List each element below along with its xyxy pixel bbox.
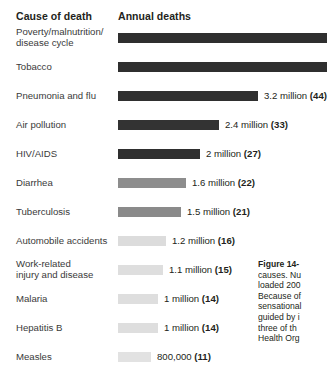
chart-row-label: Diarrhea [16,177,116,188]
bar-value-number: 1 million [164,293,202,304]
chart-row-label: Tobacco [16,61,116,72]
chart-row-label: Hepatitis B [16,322,116,333]
chart-bar-value-label: 1.1 million (15) [169,263,232,276]
figure-caption-body: causes. Nu loaded 200 Because of sensati… [258,270,332,344]
bar-value-number: 1.2 million [172,235,218,246]
chart-bar [118,178,186,188]
chart-bar-value-label: 1 million (14) [164,321,219,334]
bar-value-rank: (15) [215,264,232,275]
chart-bar-value-label: 2 million (27) [206,147,261,160]
chart-bar [118,352,151,362]
column-headers: Cause of death Annual deaths [0,10,327,26]
chart-row-label: HIV/AIDS [16,148,116,159]
bar-value-rank: (27) [244,148,261,159]
chart-bar-value-label: 800,000 (11) [157,350,211,363]
chart-row-label: Air pollution [16,119,116,130]
bar-value-rank: (44) [310,90,327,101]
chart-row: Pneumonia and flu3.2 million (44) [0,89,327,118]
chart-bar-value-label: 3.2 million (44) [264,89,327,102]
bar-value-rank: (14) [202,322,219,333]
chart-row-label: Pneumonia and flu [16,90,116,101]
chart-bar [118,265,163,275]
chart-bar-value-label: 2.4 million (33) [225,118,288,131]
bar-value-number: 2 million [206,148,244,159]
bar-value-number: 800,000 [157,351,194,362]
chart-bar [118,120,219,130]
bar-value-number: 3.2 million [264,90,310,101]
bar-value-number: 1.5 million [187,206,233,217]
chart-bar [118,149,200,159]
bar-value-number: 1 million [164,322,202,333]
column-header-annual-deaths: Annual deaths [118,10,191,22]
chart-row: Tobacco [0,60,327,89]
chart-row-label: Measles [16,351,116,362]
chart-bar-value-label: 1.2 million (16) [172,234,235,247]
chart-row-label: Automobile accidents [16,235,116,246]
figure-caption: Figure 14- causes. Nu loaded 200 Because… [258,259,332,359]
figure-caption-title: Figure 14- [258,259,332,270]
chart-bar [118,62,327,72]
chart-bar [118,33,327,43]
bar-value-rank: (33) [271,119,288,130]
bar-value-number: 2.4 million [225,119,271,130]
column-header-cause-of-death: Cause of death [16,10,92,22]
chart-bar [118,294,158,304]
chart-row-label: Malaria [16,293,116,304]
bar-value-number: 1.1 million [169,264,215,275]
chart-row-label: Work-related injury and disease [16,258,116,281]
bar-value-number: 1.6 million [192,177,238,188]
chart-row-label: Tuberculosis [16,206,116,217]
bar-value-rank: (22) [238,177,255,188]
chart-row: Tuberculosis1.5 million (21) [0,205,327,234]
chart-row: Diarrhea1.6 million (22) [0,176,327,205]
chart-row: Poverty/malnutrition/ disease cycle [0,31,327,60]
chart-bar [118,91,258,101]
chart-bar [118,323,158,333]
bar-value-rank: (14) [202,293,219,304]
chart-bar [118,236,166,246]
bar-value-rank: (21) [233,206,250,217]
bar-value-rank: (16) [218,235,235,246]
chart-bar-value-label: 1.5 million (21) [187,205,250,218]
chart-bar-value-label: 1.6 million (22) [192,176,255,189]
chart-row: HIV/AIDS2 million (27) [0,147,327,176]
chart-row: Air pollution2.4 million (33) [0,118,327,147]
chart-bar [118,207,181,217]
bar-value-rank: (11) [194,351,211,362]
chart-row-label: Poverty/malnutrition/ disease cycle [16,26,116,49]
chart-bar-value-label: 1 million (14) [164,292,219,305]
